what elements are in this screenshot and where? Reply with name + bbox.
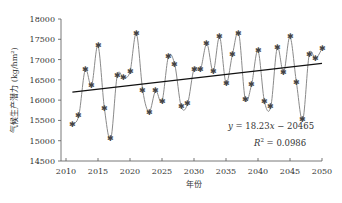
star-marker: ✱ (159, 97, 166, 106)
x-axis: 201020152020202520302035204020452050 (56, 158, 332, 176)
star-marker: ✱ (69, 120, 76, 129)
star-marker: ✱ (229, 50, 236, 59)
x-tick-label: 2010 (56, 167, 76, 176)
star-marker: ✱ (267, 102, 274, 111)
y-axis-title: 气候生产潜力 (kg/hm²) (9, 47, 19, 132)
y-tick-label: 15500 (30, 116, 55, 125)
regression-equation: y = 18.23x − 20465 (227, 121, 314, 131)
star-marker: ✱ (133, 29, 140, 38)
star-marker: ✱ (107, 134, 114, 143)
star-marker: ✱ (171, 60, 178, 69)
star-marker: ✱ (139, 86, 146, 95)
y-axis: 1450015000155001600016500170001750018000 (30, 15, 61, 166)
star-marker: ✱ (274, 43, 281, 52)
star-marker: ✱ (319, 44, 326, 53)
star-marker: ✱ (255, 46, 262, 55)
star-marker: ✱ (248, 80, 255, 89)
x-tick-label: 2040 (248, 167, 268, 176)
y-tick-label: 14500 (30, 157, 55, 166)
star-marker: ✱ (101, 104, 108, 113)
line-chart: 1450015000155001600016500170001750018000… (0, 0, 342, 203)
star-marker: ✱ (235, 29, 242, 38)
star-marker: ✱ (242, 95, 249, 104)
star-marker: ✱ (210, 67, 217, 76)
y-tick-label: 16000 (30, 96, 55, 105)
star-marker: ✱ (287, 32, 294, 41)
x-tick-label: 2050 (312, 167, 332, 176)
star-marker: ✱ (95, 41, 102, 50)
star-marker: ✱ (293, 78, 300, 87)
y-tick-label: 17000 (30, 56, 55, 65)
y-ticks: 1450015000155001600016500170001750018000 (30, 15, 61, 166)
star-marker: ✱ (197, 65, 204, 74)
star-marker: ✱ (146, 108, 153, 117)
x-tick-label: 2020 (120, 167, 140, 176)
star-marker: ✱ (184, 99, 191, 108)
y-tick-label: 17500 (30, 35, 55, 44)
star-marker: ✱ (127, 67, 134, 76)
star-marker: ✱ (203, 39, 210, 48)
y-tick-label: 18000 (30, 15, 55, 24)
star-marker: ✱ (216, 32, 223, 41)
x-tick-label: 2045 (280, 167, 300, 176)
star-marker: ✱ (88, 81, 95, 90)
eq-intercept: − 20465 (274, 121, 314, 131)
r2-value: = 0.0986 (264, 138, 306, 148)
star-marker: ✱ (312, 54, 319, 63)
star-marker: ✱ (223, 79, 230, 88)
r-squared: R2 = 0.0986 (253, 137, 306, 148)
x-axis-title: 年份 (186, 179, 202, 189)
x-tick-label: 2035 (216, 167, 236, 176)
star-marker: ✱ (82, 65, 89, 74)
y-tick-label: 16500 (30, 76, 55, 85)
star-marker: ✱ (75, 111, 82, 120)
x-tick-label: 2030 (184, 167, 204, 176)
eq-coef: = 18.23 (233, 121, 270, 131)
x-tick-label: 2025 (152, 167, 172, 176)
star-marker: ✱ (280, 68, 287, 77)
y-tick-label: 15000 (30, 137, 55, 146)
x-tick-label: 2015 (88, 167, 108, 176)
star-marker: ✱ (152, 86, 159, 95)
